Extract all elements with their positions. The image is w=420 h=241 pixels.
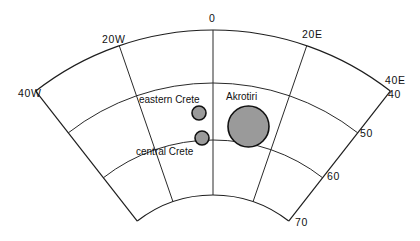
map: eastern Cretecentral CreteAkrotiri40W20W…: [0, 0, 420, 241]
graticule: [36, 30, 391, 221]
latitude-arc: [137, 195, 288, 221]
site-label: central Crete: [136, 146, 194, 157]
graticule-label: 60: [327, 170, 340, 182]
graticule-label: 40: [388, 88, 401, 100]
graticule-label: 40W: [18, 87, 41, 99]
graticule-label: 70: [295, 216, 308, 228]
graticule-label: 0: [209, 12, 215, 24]
site-label: Akrotiri: [226, 91, 257, 102]
site-label: eastern Crete: [139, 94, 200, 105]
graticule-label: 40E: [385, 74, 405, 86]
graticule-label: 50: [360, 127, 373, 139]
graticule-label: 20E: [302, 28, 322, 40]
graticule-label: 20W: [102, 33, 125, 45]
meridian-line: [36, 91, 138, 221]
site-marker: [195, 131, 209, 145]
meridian-line: [119, 46, 173, 202]
site-marker: [192, 106, 206, 120]
meridian-line: [289, 91, 391, 221]
site-marker: [228, 106, 269, 147]
